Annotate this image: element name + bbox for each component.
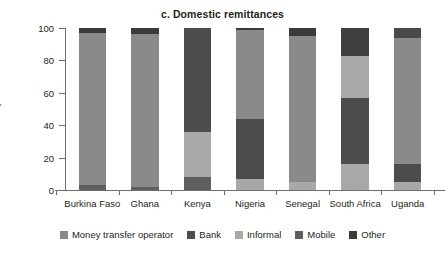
chart-title: c. Domestic remittances [0, 8, 445, 20]
y-tick-label: 60 [14, 87, 54, 98]
bar-segment[interactable] [341, 98, 368, 164]
y-tick-label: 40 [14, 120, 54, 131]
bar-segment[interactable] [236, 179, 263, 190]
y-tick-mark [59, 93, 65, 94]
legend-item[interactable]: Other [349, 229, 385, 240]
x-tick-mark [381, 190, 382, 195]
legend-swatch-icon [349, 231, 357, 239]
bar-segment[interactable] [184, 132, 211, 177]
x-tick-label: Ghana [131, 198, 160, 209]
stacked-bar[interactable] [131, 28, 158, 190]
bar-group[interactable] [341, 28, 368, 190]
bar-segment[interactable] [131, 28, 158, 34]
x-tick-mark [224, 190, 225, 195]
bar-group[interactable] [79, 28, 106, 190]
x-tick-mark [119, 190, 120, 195]
stacked-bar[interactable] [79, 28, 106, 190]
legend-item[interactable]: Money transfer operator [60, 229, 173, 240]
stacked-bar[interactable] [289, 28, 316, 190]
legend-label: Money transfer operator [72, 229, 173, 240]
bar-segment[interactable] [184, 28, 211, 132]
bar-segment[interactable] [289, 182, 316, 190]
bar-segment[interactable] [341, 56, 368, 98]
bars-layer [66, 28, 434, 190]
x-tick-mark [276, 190, 277, 195]
legend-swatch-icon [60, 231, 68, 239]
legend-label: Informal [247, 229, 281, 240]
legend-label: Mobile [307, 229, 335, 240]
x-tick-mark [434, 190, 435, 195]
bar-segment[interactable] [131, 34, 158, 186]
stacked-bar[interactable] [184, 28, 211, 190]
bar-segment[interactable] [394, 38, 421, 164]
bar-segment[interactable] [79, 185, 106, 190]
legend-swatch-icon [187, 231, 195, 239]
x-tick-label: South Africa [330, 198, 381, 209]
x-axis-line [55, 190, 445, 191]
y-axis-title: percent [0, 76, 1, 106]
bar-segment[interactable] [394, 182, 421, 190]
bar-segment[interactable] [394, 164, 421, 182]
legend-swatch-icon [235, 231, 243, 239]
x-tick-label: Kenya [184, 198, 211, 209]
x-tick-mark [171, 190, 172, 195]
stacked-bar[interactable] [394, 28, 421, 190]
bar-segment[interactable] [341, 28, 368, 56]
x-tick-label: Burkina Faso [64, 198, 120, 209]
bar-segment[interactable] [394, 28, 421, 38]
bar-segment[interactable] [184, 177, 211, 190]
chart-legend: Money transfer operatorBankInformalMobil… [0, 229, 445, 240]
y-tick-label: 80 [14, 55, 54, 66]
bar-group[interactable] [131, 28, 158, 190]
y-tick-mark [59, 190, 65, 191]
y-tick-mark [59, 60, 65, 61]
bar-segment[interactable] [236, 28, 263, 30]
bar-segment[interactable] [79, 28, 106, 33]
bar-segment[interactable] [79, 33, 106, 185]
y-tick-mark [59, 28, 65, 29]
x-tick-mark [329, 190, 330, 195]
legend-label: Other [361, 229, 385, 240]
chart-container: c. Domestic remittances percent 02040608… [0, 0, 445, 253]
y-tick-mark [59, 125, 65, 126]
bar-group[interactable] [184, 28, 211, 190]
bar-group[interactable] [289, 28, 316, 190]
bar-group[interactable] [236, 28, 263, 190]
x-tick-label: Uganda [391, 198, 424, 209]
y-tick-mark [59, 158, 65, 159]
x-tick-label: Nigeria [235, 198, 265, 209]
stacked-bar[interactable] [341, 28, 368, 190]
stacked-bar[interactable] [236, 28, 263, 190]
legend-swatch-icon [295, 231, 303, 239]
x-tick-mark [56, 190, 57, 195]
legend-label: Bank [199, 229, 221, 240]
y-tick-label: 0 [14, 185, 54, 196]
legend-item[interactable]: Informal [235, 229, 281, 240]
y-tick-label: 100 [14, 23, 54, 34]
legend-item[interactable]: Mobile [295, 229, 335, 240]
y-tick-label: 20 [14, 152, 54, 163]
bar-segment[interactable] [131, 187, 158, 190]
bar-segment[interactable] [341, 164, 368, 190]
legend-item[interactable]: Bank [187, 229, 221, 240]
bar-segment[interactable] [289, 36, 316, 182]
bar-segment[interactable] [236, 119, 263, 179]
bar-segment[interactable] [236, 30, 263, 119]
bar-group[interactable] [394, 28, 421, 190]
x-tick-label: Senegal [285, 198, 320, 209]
bar-segment[interactable] [289, 28, 316, 36]
